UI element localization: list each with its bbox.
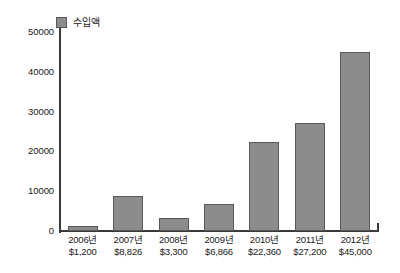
x-axis-category-label: 2012년$45,000 [325,234,385,258]
bar [68,226,98,231]
y-axis-tick-label: 20000 [2,146,54,156]
legend-label-revenue: 수입액 [73,17,100,28]
y-axis-tick-labels: 50000400003000020000100000 [0,0,54,273]
category-year: 2012년 [325,234,385,246]
bar [295,123,325,231]
chart-legend: 수입액 [56,17,100,28]
bar [249,142,279,231]
bar [159,218,189,231]
bar [204,204,234,231]
bar [340,52,370,231]
y-axis-tick-label: 30000 [2,107,54,117]
bar-series-revenue [60,32,378,231]
x-axis-category-labels: 2006년$1,2002007년$8,8262008년$3,3002009년$6… [0,234,400,270]
y-axis-tick-label: 40000 [2,67,54,77]
category-value: $45,000 [325,246,385,258]
y-axis-tick-label: 50000 [2,27,54,37]
revenue-bar-chart: 수입액 50000400003000020000100000 2006년$1,2… [0,0,400,273]
legend-swatch-icon [56,17,67,28]
bar [113,196,143,231]
y-axis-tick-label: 10000 [2,186,54,196]
plot-area [60,32,378,231]
